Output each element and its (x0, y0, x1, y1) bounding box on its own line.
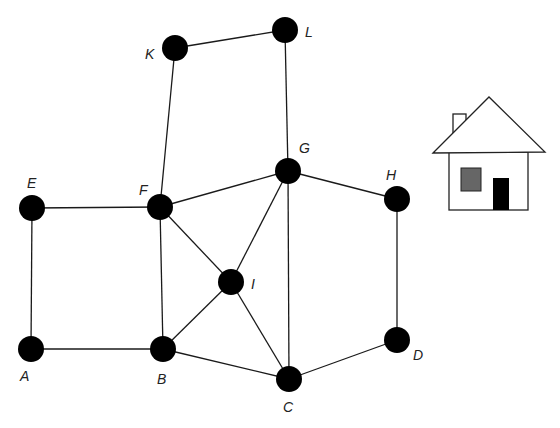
node-label-B: B (157, 371, 166, 387)
graph-edges (31, 30, 397, 379)
house-icon (433, 97, 545, 210)
house-roof (433, 97, 545, 153)
node-K (162, 35, 188, 61)
node-label-A: A (19, 368, 29, 384)
node-label-D: D (413, 347, 423, 363)
graph-diagram: ABCDEFGHIKL (0, 0, 560, 428)
house-door (493, 178, 509, 210)
edge-K-L (175, 30, 285, 48)
node-label-H: H (386, 167, 397, 183)
node-L (272, 17, 298, 43)
edge-G-C (288, 171, 289, 379)
node-E (19, 195, 45, 221)
node-H (384, 186, 410, 212)
edge-B-F (160, 207, 163, 349)
edge-I-C (231, 282, 289, 379)
node-B (150, 336, 176, 362)
node-label-G: G (299, 140, 310, 156)
edge-D-C (289, 340, 397, 379)
edge-L-G (285, 30, 288, 171)
node-F (147, 194, 173, 220)
edge-E-F (32, 207, 160, 208)
node-label-C: C (283, 399, 294, 415)
node-D (384, 327, 410, 353)
edge-E-A (31, 208, 32, 349)
graph-nodes (18, 17, 410, 392)
edge-F-G (160, 171, 288, 207)
node-G (275, 158, 301, 184)
node-label-K: K (145, 46, 155, 62)
edge-B-C (163, 349, 289, 379)
edge-G-H (288, 171, 397, 199)
edge-B-I (163, 282, 231, 349)
node-I (218, 269, 244, 295)
node-label-L: L (305, 24, 313, 40)
node-C (276, 366, 302, 392)
edge-I-G (231, 171, 288, 282)
node-label-I: I (251, 276, 255, 292)
edge-F-I (160, 207, 231, 282)
graph-labels: ABCDEFGHIKL (19, 24, 423, 415)
node-label-E: E (27, 175, 37, 191)
house-window (461, 168, 481, 191)
edge-F-K (160, 48, 175, 207)
node-A (18, 336, 44, 362)
node-label-F: F (139, 182, 149, 198)
